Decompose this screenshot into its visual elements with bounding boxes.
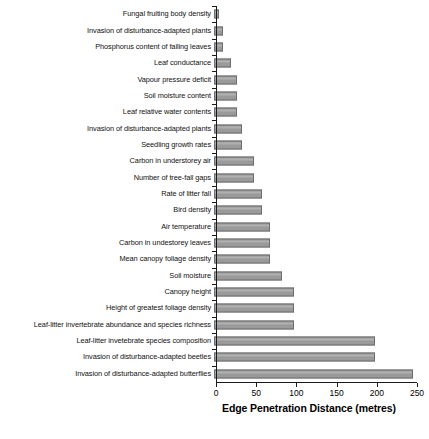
category-label: Number of tree-fall gaps <box>0 174 214 182</box>
y-axis-tick <box>212 268 216 269</box>
bar-row: Carbon in undestorey leaves <box>0 235 422 251</box>
bar <box>214 157 254 166</box>
y-axis-tick <box>212 251 216 252</box>
bar-row: Phosphorus content of falling leaves <box>0 39 422 55</box>
category-label: Fungal fruiting body density <box>0 10 214 18</box>
y-axis-tick <box>212 300 216 301</box>
category-label: Leaf relative water contents <box>0 108 214 116</box>
bar <box>214 91 237 100</box>
category-label: Soil moisture content <box>0 92 214 100</box>
y-axis-tick <box>212 202 216 203</box>
bar-row: Vapour pressure deficit <box>0 71 422 87</box>
bar <box>214 222 270 231</box>
bar <box>214 75 237 84</box>
y-axis-tick <box>212 120 216 121</box>
x-axis-tick <box>377 383 378 387</box>
bar-row: Canopy height <box>0 284 422 300</box>
x-axis-tick <box>417 383 418 387</box>
x-axis-tick <box>216 383 217 387</box>
bar-track <box>214 268 422 284</box>
x-axis-tick-label: 250 <box>397 388 429 398</box>
bar <box>214 271 282 280</box>
bar <box>214 124 242 133</box>
y-axis-tick <box>212 186 216 187</box>
bar-row: Bird density <box>0 202 422 218</box>
y-axis-tick <box>212 153 216 154</box>
x-axis-tick-label: 100 <box>276 388 316 398</box>
bar-row: Invasion of disturbance-adapted beetles <box>0 349 422 365</box>
category-label: Phosphorus content of falling leaves <box>0 43 214 51</box>
bar-rows: Fungal fruiting body densityInvasion of … <box>0 6 422 382</box>
bar-track <box>214 71 422 87</box>
y-axis-tick <box>212 55 216 56</box>
bar-row: Leaf-litter invetebrate species composit… <box>0 333 422 349</box>
category-label: Invasion of disturbance-adapted plants <box>0 27 214 35</box>
bar-row: Number of tree-fall gaps <box>0 169 422 185</box>
bar <box>214 189 262 198</box>
bar-track <box>214 349 422 365</box>
x-axis-tick-label: 0 <box>196 388 236 398</box>
y-axis-tick <box>212 88 216 89</box>
x-axis-tick <box>256 383 257 387</box>
category-label: Invasion of disturbance-adapted beetles <box>0 353 214 361</box>
bar <box>214 108 237 117</box>
bar <box>214 288 294 297</box>
category-label: Air temperature <box>0 223 214 231</box>
y-axis-tick <box>212 333 216 334</box>
category-label: Soil moisture <box>0 272 214 280</box>
bar <box>214 255 270 264</box>
bar-track <box>214 153 422 169</box>
bar <box>214 353 375 362</box>
y-axis-tick <box>212 71 216 72</box>
bar <box>214 304 294 313</box>
y-axis-tick <box>212 284 216 285</box>
y-axis-tick <box>212 137 216 138</box>
bar-track <box>214 104 422 120</box>
bar-row: Carbon in understorey air <box>0 153 422 169</box>
bar-track <box>214 202 422 218</box>
bar-track <box>214 88 422 104</box>
category-label: Leaf-litter invetebrate species composit… <box>0 337 214 345</box>
y-axis-tick <box>212 6 216 7</box>
bar-row: Leaf conductance <box>0 55 422 71</box>
bar-row: Soil moisture content <box>0 88 422 104</box>
x-axis-title: Edge Penetration Distance (metres) <box>196 402 422 414</box>
bar-row: Soil moisture <box>0 268 422 284</box>
bar-track <box>214 317 422 333</box>
bar-row: Invasion of disturbance-adapted butterfl… <box>0 366 422 382</box>
x-axis-tick <box>296 383 297 387</box>
bar <box>214 206 262 215</box>
category-label: Canopy height <box>0 288 214 296</box>
bar-track <box>214 251 422 267</box>
bar-track <box>214 235 422 251</box>
y-axis-tick <box>212 317 216 318</box>
category-label: Seedling growth rates <box>0 141 214 149</box>
bar-track <box>214 366 422 382</box>
category-label: Carbon in understorey air <box>0 157 214 165</box>
category-label: Vapour pressure deficit <box>0 76 214 84</box>
category-label: Leaf-litter invertebrate abundance and s… <box>0 321 214 329</box>
bar-track <box>214 39 422 55</box>
bar <box>214 337 375 346</box>
category-label: Height of greatest foliage density <box>0 304 214 312</box>
x-axis-tick <box>337 383 338 387</box>
bar <box>214 140 242 149</box>
bar-row: Leaf-litter invertebrate abundance and s… <box>0 317 422 333</box>
bar-track <box>214 284 422 300</box>
bar-row: Fungal fruiting body density <box>0 6 422 22</box>
category-label: Carbon in undestorey leaves <box>0 239 214 247</box>
bar-track <box>214 218 422 234</box>
category-label: Bird density <box>0 206 214 214</box>
bar-track <box>214 55 422 71</box>
bar-row: Seedling growth rates <box>0 137 422 153</box>
y-axis-tick <box>212 22 216 23</box>
bar-track <box>214 300 422 316</box>
category-label: Leaf conductance <box>0 59 214 67</box>
bar-row: Invasion of disturbance-adapted plants <box>0 120 422 136</box>
x-axis-tick-label: 150 <box>317 388 357 398</box>
bar-row: Height of greatest foliage density <box>0 300 422 316</box>
bar-row: Mean canopy foliage density <box>0 251 422 267</box>
x-axis-line <box>216 382 417 383</box>
y-axis-tick <box>212 169 216 170</box>
